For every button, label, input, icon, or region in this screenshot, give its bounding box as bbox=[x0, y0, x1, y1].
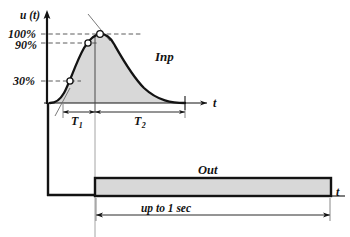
timing-diagram-figure: u (t) 100% 90% 30% t Inp T1 T2 Out t up … bbox=[0, 0, 350, 237]
y-axis-label: u (t) bbox=[20, 9, 40, 22]
marker-30-percent bbox=[67, 78, 73, 84]
interval-T2-subscript: 2 bbox=[141, 121, 146, 130]
interval-T2-base: T bbox=[134, 114, 142, 128]
output-pulse-rect bbox=[95, 178, 331, 196]
timing-diagram-svg: u (t) 100% 90% 30% t Inp T1 T2 Out t up … bbox=[0, 0, 350, 237]
y-tick-label-30: 30% bbox=[12, 74, 35, 88]
input-curve-label: Inp bbox=[154, 49, 174, 64]
marker-100-percent bbox=[97, 31, 104, 38]
interval-T1-subscript: 1 bbox=[79, 121, 83, 130]
output-pulse-label: Out bbox=[198, 163, 218, 177]
interval-T1-base: T bbox=[71, 114, 79, 128]
marker-90-percent bbox=[85, 40, 91, 46]
y-tick-label-90: 90% bbox=[15, 38, 37, 52]
duration-label: up to 1 sec bbox=[141, 202, 191, 215]
